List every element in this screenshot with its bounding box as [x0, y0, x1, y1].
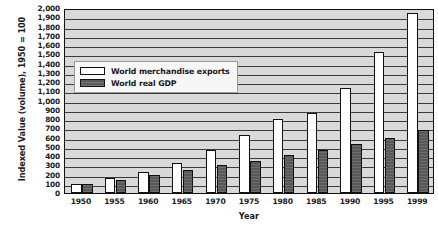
- y-axis-tick-label: 1,100: [38, 88, 60, 96]
- x-axis-tick-label: 1955: [104, 197, 124, 206]
- bar-exports: [105, 178, 116, 193]
- bar-exports: [206, 150, 217, 193]
- legend-item-exports: World merchandise exports: [80, 65, 230, 77]
- legend-swatch-exports: [80, 67, 105, 75]
- y-axis-tick-label: 1,700: [38, 33, 60, 41]
- y-axis-tick-label: 1,600: [38, 42, 60, 50]
- x-axis-tick-labels: 1950195519601965197019751980198519901995…: [64, 197, 434, 211]
- x-axis-tick-label: 1990: [340, 197, 360, 206]
- bar-group: [407, 10, 429, 193]
- bar-exports: [71, 184, 82, 193]
- bar-exports: [307, 113, 318, 193]
- x-axis-tick-label: 1975: [239, 197, 259, 206]
- chart-legend: World merchandise exports World real GDP: [74, 61, 238, 93]
- legend-item-gdp: World real GDP: [80, 77, 230, 89]
- y-axis-tick-label: 800: [45, 116, 60, 124]
- x-axis-tick-label: 1999: [407, 197, 427, 206]
- y-axis-tick-label: 2,000: [38, 5, 60, 13]
- y-axis-tick-label: 400: [45, 153, 60, 161]
- plot-area: [64, 9, 434, 194]
- y-axis-tick-label: 1,400: [38, 61, 60, 69]
- bar-gdp: [183, 170, 194, 193]
- y-axis-tick-label: 1,200: [38, 79, 60, 87]
- y-axis-tick-label: 600: [45, 135, 60, 143]
- bar-chart-figure: Indexed Value (volume), 1950 = 100 01002…: [0, 0, 438, 243]
- x-axis-tick-label: 1980: [272, 197, 292, 206]
- bar-group: [307, 10, 329, 193]
- y-axis-tick-label: 900: [45, 107, 60, 115]
- bar-exports: [138, 172, 149, 193]
- x-axis-tick-label: 1965: [172, 197, 192, 206]
- bar-gdp: [351, 144, 362, 193]
- y-axis-tick-label: 1,800: [38, 24, 60, 32]
- x-axis-tick-label: 1950: [71, 197, 91, 206]
- bar-gdp: [284, 155, 295, 193]
- bar-group: [172, 10, 194, 193]
- y-axis-tick-label: 700: [45, 125, 60, 133]
- bar-group: [105, 10, 127, 193]
- bar-group: [71, 10, 93, 193]
- x-axis-tick-label: 1985: [306, 197, 326, 206]
- y-axis-tick-label: 300: [45, 162, 60, 170]
- bar-group: [273, 10, 295, 193]
- bar-gdp: [385, 138, 396, 193]
- bar-exports: [374, 52, 385, 193]
- bar-group: [239, 10, 261, 193]
- bar-gdp: [250, 161, 261, 193]
- legend-label-gdp: World real GDP: [111, 79, 176, 88]
- x-axis-tick-label: 1970: [205, 197, 225, 206]
- y-axis-tick-label: 0: [55, 190, 60, 198]
- bar-group: [340, 10, 362, 193]
- bar-exports: [340, 88, 351, 193]
- bar-exports: [273, 119, 284, 193]
- bar-exports: [407, 13, 418, 193]
- bar-exports: [172, 163, 183, 193]
- y-axis-tick-label: 500: [45, 144, 60, 152]
- y-axis-tick-label: 1,900: [38, 14, 60, 22]
- bar-group: [374, 10, 396, 193]
- bar-gdp: [82, 184, 93, 193]
- bar-gdp: [149, 175, 160, 193]
- bar-group: [206, 10, 228, 193]
- legend-label-exports: World merchandise exports: [111, 67, 230, 76]
- bar-gdp: [318, 150, 329, 193]
- bar-group: [138, 10, 160, 193]
- bar-gdp: [217, 165, 228, 193]
- legend-swatch-gdp: [80, 79, 105, 87]
- y-axis-tick-label: 200: [45, 172, 60, 180]
- y-axis-tick-label: 1,500: [38, 51, 60, 59]
- bar-gdp: [116, 180, 127, 193]
- y-axis-tick-label: 100: [45, 181, 60, 189]
- y-axis-tick-labels: 01002003004005006007008009001,0001,1001,…: [18, 8, 62, 196]
- y-axis-tick-label: 1,000: [38, 98, 60, 106]
- x-axis-tick-label: 1995: [373, 197, 393, 206]
- bar-gdp: [418, 130, 429, 193]
- bars-layer: [65, 10, 433, 193]
- x-axis-tick-label: 1960: [138, 197, 158, 206]
- x-axis-title: Year: [64, 211, 434, 221]
- bar-exports: [239, 135, 250, 193]
- y-axis-tick-label: 1,300: [38, 70, 60, 78]
